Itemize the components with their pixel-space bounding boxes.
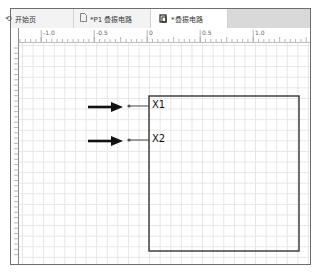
pin-x2-dot[interactable] [127,138,130,141]
pin-label-x1: X1 [152,99,165,110]
circuit-block[interactable] [149,96,299,251]
arrow-right-icon [88,102,123,112]
editor-window: ⟲ 开始页 *P1 叠振电路 *叠振电路 -1.0 -0.5 0 0.5 [10,8,311,265]
pin-label-x2: X2 [152,133,165,144]
arrow-right-icon [88,136,123,146]
pin-x1-dot[interactable] [127,104,130,107]
